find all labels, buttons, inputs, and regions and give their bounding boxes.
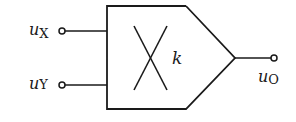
input-x-terminal bbox=[59, 28, 65, 34]
input-x-label: uX bbox=[29, 20, 49, 41]
input-y-terminal bbox=[59, 82, 65, 88]
output-label: uO bbox=[258, 67, 279, 87]
gain-label: k bbox=[172, 48, 182, 68]
input-y-label: uY bbox=[29, 74, 48, 93]
multiplier-body bbox=[107, 6, 235, 109]
output-terminal bbox=[271, 55, 277, 61]
multiplier-diagram: k uX uY uO bbox=[0, 0, 296, 122]
